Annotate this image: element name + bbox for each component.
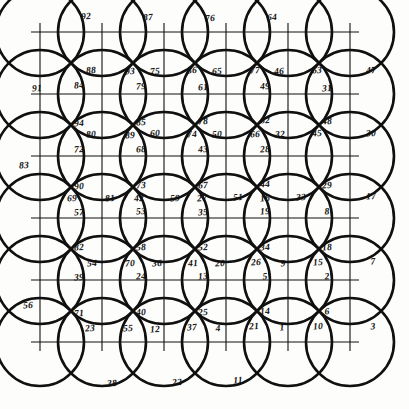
region-number-20: 20 <box>215 259 226 269</box>
region-number-50: 50 <box>212 130 223 140</box>
region-number-5: 5 <box>262 272 268 282</box>
region-number-57: 57 <box>74 208 85 218</box>
region-number-42: 42 <box>134 194 145 204</box>
region-number-55: 55 <box>123 324 134 334</box>
region-number-94: 94 <box>74 119 85 129</box>
region-number-6: 6 <box>324 307 330 317</box>
region-number-3: 3 <box>370 322 376 332</box>
region-number-29: 29 <box>322 181 333 191</box>
region-number-45: 45 <box>312 129 323 139</box>
circle-lattice-svg <box>0 0 409 409</box>
region-number-82: 82 <box>74 243 85 253</box>
region-number-75: 75 <box>150 67 161 77</box>
region-number-2: 2 <box>324 272 330 282</box>
region-number-88: 88 <box>86 66 97 76</box>
region-number-72: 72 <box>74 145 85 155</box>
region-number-58: 58 <box>136 243 147 253</box>
region-number-70: 70 <box>125 259 136 269</box>
region-number-32: 32 <box>275 130 286 140</box>
region-number-31: 31 <box>322 84 333 94</box>
region-number-79: 79 <box>136 82 147 92</box>
region-number-66: 66 <box>250 130 261 140</box>
region-number-71: 71 <box>74 309 85 319</box>
region-number-61: 61 <box>198 83 209 93</box>
region-number-67: 67 <box>198 181 209 191</box>
region-number-18: 18 <box>322 243 333 253</box>
region-number-47: 47 <box>366 66 377 76</box>
region-number-7: 7 <box>370 257 376 267</box>
region-number-9: 9 <box>280 259 286 269</box>
region-number-87: 87 <box>143 13 154 23</box>
region-number-78: 78 <box>198 117 209 127</box>
region-number-39: 39 <box>74 273 85 283</box>
region-number-12: 12 <box>150 325 161 335</box>
region-number-91: 91 <box>32 84 43 94</box>
region-number-11: 11 <box>233 376 243 386</box>
region-number-84: 84 <box>74 81 85 91</box>
region-number-43: 43 <box>198 145 209 155</box>
region-number-27: 27 <box>197 194 208 204</box>
region-number-49: 49 <box>260 82 271 92</box>
region-number-36: 36 <box>152 259 163 269</box>
region-number-23: 23 <box>85 324 96 334</box>
region-number-16: 16 <box>260 194 271 204</box>
region-number-62: 62 <box>260 116 271 126</box>
figure-canvas: 9287766491889375866577466347847961493194… <box>0 0 409 409</box>
region-number-59: 59 <box>170 194 181 204</box>
region-number-85: 85 <box>136 118 147 128</box>
region-number-93: 93 <box>125 67 136 77</box>
region-number-53: 53 <box>136 207 147 217</box>
region-number-76: 76 <box>205 14 216 24</box>
region-number-22: 22 <box>172 378 183 388</box>
region-number-52: 52 <box>198 243 209 253</box>
region-number-28: 28 <box>260 145 271 155</box>
region-number-17: 17 <box>366 192 377 202</box>
region-number-26: 26 <box>251 258 262 268</box>
region-number-80: 80 <box>86 130 97 140</box>
region-number-68: 68 <box>136 145 147 155</box>
region-number-77: 77 <box>250 66 261 76</box>
region-number-51: 51 <box>233 193 244 203</box>
region-number-86: 86 <box>187 66 198 76</box>
region-number-74: 74 <box>187 130 198 140</box>
region-number-33: 33 <box>296 193 307 203</box>
region-number-38: 38 <box>107 379 118 389</box>
region-number-60: 60 <box>150 129 161 139</box>
region-number-35: 35 <box>198 208 209 218</box>
region-number-8: 8 <box>324 207 330 217</box>
region-number-90: 90 <box>74 182 85 192</box>
region-number-46: 46 <box>274 67 285 77</box>
region-number-92: 92 <box>81 12 92 22</box>
region-number-73: 73 <box>136 181 147 191</box>
region-number-69: 69 <box>67 194 78 204</box>
region-number-15: 15 <box>313 258 324 268</box>
region-number-10: 10 <box>313 322 324 332</box>
region-number-65: 65 <box>212 67 223 77</box>
region-number-19: 19 <box>260 207 271 217</box>
region-number-34: 34 <box>260 243 271 253</box>
region-number-54: 54 <box>87 259 98 269</box>
region-number-44: 44 <box>260 180 271 190</box>
region-number-14: 14 <box>260 307 271 317</box>
region-number-48: 48 <box>322 117 333 127</box>
region-number-25: 25 <box>198 308 209 318</box>
region-number-4: 4 <box>215 324 221 334</box>
region-number-83: 83 <box>19 161 30 171</box>
region-number-13: 13 <box>198 272 209 282</box>
region-number-63: 63 <box>312 66 323 76</box>
region-number-41: 41 <box>188 259 199 269</box>
region-number-40: 40 <box>136 308 147 318</box>
region-number-37: 37 <box>187 323 198 333</box>
region-number-1: 1 <box>279 323 285 333</box>
region-number-30: 30 <box>366 129 377 139</box>
region-number-64: 64 <box>267 13 278 23</box>
region-number-89: 89 <box>125 131 136 141</box>
region-number-24: 24 <box>136 272 147 282</box>
region-number-56: 56 <box>23 301 34 311</box>
region-number-81: 81 <box>105 194 116 204</box>
region-number-21: 21 <box>249 322 260 332</box>
